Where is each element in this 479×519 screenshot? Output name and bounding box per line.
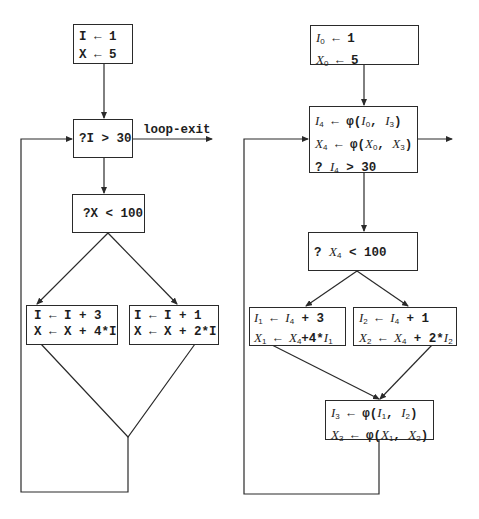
init-block: I ← 1 X ← 5 (73, 24, 133, 64)
ssa-text: + 3 (294, 312, 324, 326)
stmt: X ← X + 4*I (34, 324, 117, 340)
ssa-condition-block: ? X4 < 100 (308, 232, 418, 271)
ssa-text: > 30 (339, 161, 377, 175)
ssa-variable: X4 (394, 330, 406, 345)
ssa-variable: X4 (289, 330, 301, 345)
ssa-text: ← φ( (340, 407, 378, 421)
stmt: I ← I + 1 (134, 308, 218, 324)
ssa-variable: I4 (390, 310, 399, 325)
ssa-variable: I4 (315, 113, 324, 128)
ssa-variable: X0 (316, 52, 328, 67)
ssa-stmt: I1 ← I4 + 3 (254, 310, 345, 330)
ssa-branch-left-block: I1 ← I4 + 3X1 ← X4+4*I1 (249, 307, 346, 346)
loop-test-block: ?I > 30 (73, 119, 133, 158)
ssa-text: ← (266, 332, 289, 346)
ssa-variable: I3 (385, 113, 394, 128)
ssa-stmt: I4 ← φ(I0, I3) (315, 111, 412, 134)
ssa-variable: I1 (254, 310, 263, 325)
edge-ssa-cond-to-left (306, 271, 357, 306)
ssa-stmt: I2 ← I4 + 1 (359, 310, 456, 330)
ssa-stmt: X0 ← 5 (316, 51, 413, 73)
ssa-text: ← 1 (325, 32, 355, 46)
ssa-text: +4* (301, 332, 324, 346)
ssa-variable: X1 (381, 427, 393, 442)
edge-merge (41, 344, 195, 437)
ssa-variable: I1 (377, 405, 386, 420)
ssa-text: ← (371, 332, 394, 346)
ssa-text: ? (314, 246, 329, 260)
edge-cond-to-left (37, 233, 108, 304)
branch-left-block: I ← I + 3 X ← X + 4*I (26, 305, 118, 345)
ssa-stmt: X4 ← φ(X0, X3) (315, 134, 412, 157)
ssa-text: + 2* (406, 332, 444, 346)
ssa-variable: X3 (331, 427, 343, 442)
ssa-stmt: X3 ← φ(X1, X2) (331, 426, 428, 448)
ssa-stmt: ? X4 < 100 (314, 243, 412, 265)
ssa-variable: I3 (331, 405, 340, 420)
ssa-init-block: I0 ← 1X0 ← 5 (310, 25, 419, 65)
ssa-variable: I1 (324, 330, 333, 345)
stmt: X ← X + 2*I (134, 324, 218, 340)
edge-ssa-left-to-merge (272, 345, 379, 399)
ssa-text: , (370, 115, 385, 129)
ssa-variable: I2 (401, 405, 410, 420)
ssa-text: < 100 (341, 246, 386, 260)
ssa-text: , (377, 138, 392, 152)
stmt: ?X < 100 (83, 205, 144, 223)
edge-ssa-cond-to-right (357, 271, 408, 306)
ssa-stmt: X1 ← X4+4*I1 (254, 330, 345, 350)
ssa-text: ← (368, 312, 391, 326)
ssa-text: ) (405, 138, 413, 152)
ssa-variable: I4 (330, 159, 339, 174)
ssa-variable: X2 (408, 427, 420, 442)
ssa-text: ) (394, 115, 402, 129)
ssa-branch-right-block: I2 ← I4 + 1X2 ← X4 + 2*I2 (353, 307, 457, 346)
ssa-variable: I2 (444, 330, 453, 345)
edge-cond-to-right (108, 233, 177, 304)
ssa-variable: I2 (359, 310, 368, 325)
ssa-variable: X4 (315, 136, 327, 151)
ssa-stmt: X2 ← X4 + 2*I2 (359, 330, 456, 350)
ssa-text: ← (263, 312, 286, 326)
ssa-variable: I0 (361, 113, 370, 128)
ssa-stmt: ? I4 > 30 (315, 157, 412, 180)
ssa-variable: X2 (359, 330, 371, 345)
ssa-merge-block: I3 ← φ(I1, I2)X3 ← φ(X1, X2) (325, 400, 434, 440)
stmt: I ← 1 (79, 28, 127, 46)
ssa-variable: X0 (365, 136, 377, 151)
stmt: I ← I + 3 (34, 308, 117, 324)
ssa-text: ? (315, 161, 330, 175)
stmt: X ← 5 (79, 46, 127, 64)
ssa-variable: X1 (254, 330, 266, 345)
branch-right-block: I ← I + 1 X ← X + 2*I (129, 305, 219, 345)
edge-ssa-right-to-merge (380, 345, 432, 399)
ssa-text: ) (421, 429, 429, 443)
ssa-text: ← 5 (328, 54, 358, 68)
ssa-text: , (386, 407, 401, 421)
ssa-variable: I4 (285, 310, 294, 325)
ssa-variable: I0 (316, 30, 325, 45)
ssa-text: ) (410, 407, 418, 421)
ssa-text: ← φ( (327, 138, 365, 152)
ssa-variable: X3 (392, 136, 404, 151)
ssa-variable: X4 (329, 244, 341, 259)
stmt: ?I > 30 (79, 130, 127, 148)
loop-exit-label: loop-exit (143, 123, 211, 137)
ssa-text: ← φ( (324, 115, 362, 129)
ssa-stmt: I3 ← φ(I1, I2) (331, 404, 428, 426)
condition-block: ?X < 100 (72, 194, 145, 233)
ssa-text: ← φ( (343, 429, 381, 443)
ssa-text: + 1 (399, 312, 429, 326)
ssa-stmt: I0 ← 1 (316, 29, 413, 51)
ssa-text: , (393, 429, 408, 443)
ssa-loop-header-block: I4 ← φ(I0, I3)X4 ← φ(X0, X3)? I4 > 30 (309, 106, 418, 173)
